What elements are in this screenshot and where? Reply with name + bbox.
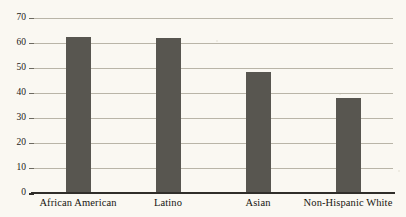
y-axis-tick-label: 0 (0, 187, 26, 198)
scan-speck (398, 170, 400, 172)
y-axis-tick-label: 30 (0, 112, 26, 123)
bar[interactable] (336, 98, 361, 193)
y-axis-tick-label: 40 (0, 87, 26, 98)
x-axis-category-label: Non-Hispanic White (303, 196, 393, 209)
plot-area (33, 18, 393, 193)
x-axis-category-label: Latino (123, 196, 213, 209)
bar[interactable] (66, 37, 91, 193)
y-axis-tick-label: 70 (0, 12, 26, 23)
x-axis-baseline (31, 192, 395, 194)
y-axis-tick-label: 20 (0, 137, 26, 148)
x-axis-category-label: African American (33, 196, 123, 209)
bar[interactable] (156, 38, 181, 193)
bar[interactable] (246, 72, 271, 193)
bar-chart: 010203040506070 African AmericanLatinoAs… (0, 0, 406, 217)
y-axis-tick-label: 60 (0, 37, 26, 48)
y-axis-tick-label: 10 (0, 162, 26, 173)
y-axis-tick-label: 50 (0, 62, 26, 73)
x-axis-category-label: Asian (213, 196, 303, 209)
